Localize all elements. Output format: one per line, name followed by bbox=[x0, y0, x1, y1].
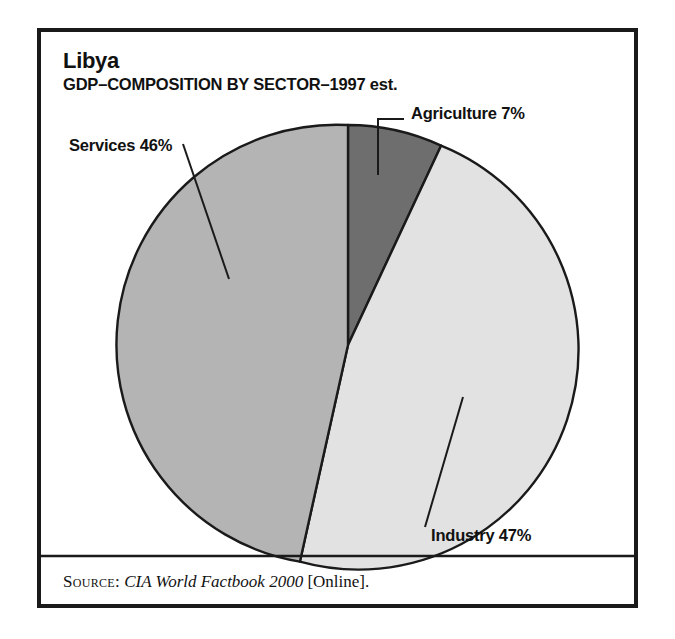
chart-figure-frame: Libya GDP–COMPOSITION BY SECTOR–1997 est… bbox=[37, 28, 638, 608]
pie-slice-services[interactable] bbox=[116, 125, 348, 562]
pie-chart bbox=[41, 32, 642, 612]
pie-label-industry: Industry 47% bbox=[431, 526, 531, 545]
source-note: Source: CIA World Factbook 2000 [Online]… bbox=[63, 572, 369, 592]
source-medium: [Online]. bbox=[307, 572, 369, 591]
pie-label-agriculture: Agriculture 7% bbox=[411, 104, 525, 123]
source-kicker: Source: bbox=[63, 572, 120, 591]
pie-label-services: Services 46% bbox=[69, 136, 172, 155]
pie-chart-svg bbox=[41, 32, 642, 612]
source-title: CIA World Factbook 2000 bbox=[124, 572, 303, 591]
